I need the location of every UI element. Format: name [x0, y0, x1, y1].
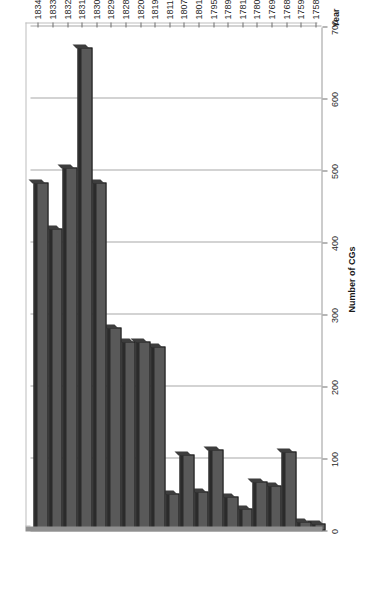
value-tick-label-700: 700 [329, 19, 339, 34]
bar-row [267, 26, 282, 530]
bar-1811 [165, 493, 180, 530]
bar-row [106, 26, 121, 530]
value-tick-label-300: 300 [329, 307, 339, 322]
value-axis-title: Number of CGs [346, 27, 356, 531]
category-tick-1769 [271, 22, 272, 27]
category-label-1832: 1832 [62, 0, 72, 19]
category-tick-1831 [81, 22, 82, 27]
value-tick-100 [322, 458, 327, 459]
category-label-1831: 1831 [76, 0, 86, 19]
category-tick-1807 [183, 22, 184, 27]
category-tick-1833 [52, 22, 53, 27]
category-tick-1758 [315, 22, 316, 27]
category-label-1801: 1801 [193, 0, 203, 19]
category-tick-1780 [256, 22, 257, 27]
category-tick-1830 [96, 22, 97, 27]
category-label-1829: 1829 [105, 0, 115, 19]
bar-row [92, 26, 107, 530]
category-label-1780: 1780 [251, 0, 261, 19]
bar-row [135, 26, 150, 530]
bar-row [62, 26, 77, 530]
bar-1768 [281, 451, 296, 530]
value-tick-400 [322, 242, 327, 243]
value-tick-0 [322, 530, 327, 531]
bar-row [121, 26, 136, 530]
bar-1830 [92, 182, 107, 530]
bar-row [252, 26, 267, 530]
value-tick-label-100: 100 [329, 451, 339, 466]
bar-1801 [194, 491, 209, 530]
category-label-1758: 1758 [310, 0, 320, 19]
value-tick-300 [322, 314, 327, 315]
category-label-1789: 1789 [222, 0, 232, 19]
category-label-1828: 1828 [120, 0, 130, 19]
value-tick-label-600: 600 [329, 91, 339, 106]
category-label-1781: 1781 [237, 0, 247, 19]
category-label-1833: 1833 [47, 0, 57, 19]
rotated-chart-stage: 0100200300400500600700 Number of CGs 175… [0, 0, 370, 593]
bar-1829 [106, 327, 121, 530]
bar-1807 [179, 454, 194, 530]
bar-series [30, 27, 321, 530]
category-label-1759: 1759 [295, 0, 305, 19]
bar-1833 [48, 228, 63, 530]
bar-1795 [208, 449, 223, 530]
category-axis-spine [25, 526, 322, 531]
bar-1831 [77, 47, 92, 530]
bar-row [48, 26, 63, 530]
bar-row [208, 26, 223, 530]
bar-1834 [33, 182, 48, 530]
bar-1820 [135, 341, 150, 530]
category-tick-1819 [154, 22, 155, 27]
value-axis: 0100200300400500600700 [322, 27, 336, 531]
bar-1828 [121, 341, 136, 530]
category-tick-1829 [110, 22, 111, 27]
bar-row [296, 26, 311, 530]
category-tick-1820 [140, 22, 141, 27]
bar-1819 [150, 346, 165, 530]
bar-row [223, 26, 238, 530]
category-label-1768: 1768 [281, 0, 291, 19]
category-tick-1811 [169, 22, 170, 27]
bar-1769 [267, 485, 282, 530]
bar-row [238, 26, 253, 530]
bar-chart: 0100200300400500600700 Number of CGs 175… [0, 0, 370, 593]
bar-row [33, 26, 48, 530]
category-tick-1781 [242, 22, 243, 27]
category-label-1807: 1807 [178, 0, 188, 19]
category-label-1795: 1795 [208, 0, 218, 19]
bar-1832 [62, 167, 77, 530]
bar-row [194, 26, 209, 530]
bar-row [165, 26, 180, 530]
bar-1789 [223, 496, 238, 530]
value-tick-200 [322, 386, 327, 387]
value-tick-label-500: 500 [329, 163, 339, 178]
category-label-1820: 1820 [135, 0, 145, 19]
value-tick-label-200: 200 [329, 379, 339, 394]
bar-row [179, 26, 194, 530]
value-tick-700 [322, 26, 327, 27]
value-tick-600 [322, 98, 327, 99]
value-tick-label-400: 400 [329, 235, 339, 250]
value-tick-500 [322, 170, 327, 171]
category-label-1830: 1830 [91, 0, 101, 19]
value-tick-label-0: 0 [329, 528, 339, 533]
category-tick-1832 [67, 22, 68, 27]
bar-row [77, 26, 92, 530]
category-tick-1759 [300, 22, 301, 27]
plot-area [30, 27, 322, 531]
category-label-1769: 1769 [266, 0, 276, 19]
category-label-1811: 1811 [164, 0, 174, 19]
category-tick-1828 [125, 22, 126, 27]
category-tick-1789 [227, 22, 228, 27]
bar-row [281, 26, 296, 530]
category-tick-1834 [37, 22, 38, 27]
category-label-1819: 1819 [149, 0, 159, 19]
bar-row [150, 26, 165, 530]
category-tick-1768 [286, 22, 287, 27]
category-label-1834: 1834 [32, 0, 42, 19]
category-tick-1795 [213, 22, 214, 27]
category-tick-1801 [198, 22, 199, 27]
bar-1780 [252, 481, 267, 530]
category-axis: 1758175917681769178017811789179518011807… [25, 0, 322, 27]
